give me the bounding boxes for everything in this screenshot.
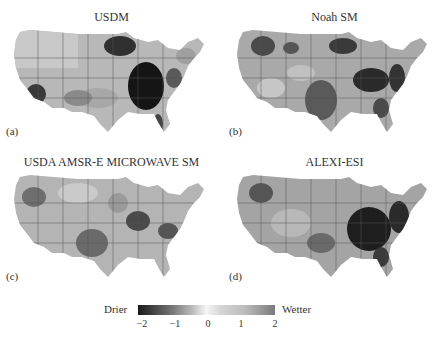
colorbar: Drier Wetter −2 −1 0 1 2 (0, 300, 446, 346)
panel-title: ALEXI-ESI (223, 155, 446, 170)
colorbar-right-label: Wetter (282, 303, 311, 315)
panel-title: Noah SM (223, 10, 446, 25)
subplot-label: (d) (229, 270, 242, 282)
colorbar-tick: −1 (170, 318, 181, 329)
subplot-label: (a) (6, 125, 18, 137)
panel-c: USDA AMSR-E MICROWAVE SM (c) (0, 145, 223, 290)
subplot-label: (b) (229, 125, 242, 137)
us-map-noah-sm (231, 28, 436, 138)
colorbar-tick: 2 (273, 318, 278, 329)
panel-title: USDM (0, 10, 223, 25)
us-map-usdm (8, 28, 213, 138)
panel-b: Noah SM (b) (223, 0, 446, 145)
panel-title: USDA AMSR-E MICROWAVE SM (0, 155, 223, 170)
colorbar-tick: 1 (239, 318, 244, 329)
panel-d: ALEXI-ESI (d) (223, 145, 446, 290)
us-map-amsr-e (8, 173, 213, 283)
subplot-label: (c) (6, 270, 18, 282)
us-map-alexi-esi (231, 173, 436, 283)
colorbar-tick: −2 (137, 318, 148, 329)
colorbar-tick: 0 (206, 318, 211, 329)
colorbar-gradient (138, 305, 275, 315)
panel-a: USDM (a) (0, 0, 223, 145)
colorbar-left-label: Drier (104, 303, 127, 315)
